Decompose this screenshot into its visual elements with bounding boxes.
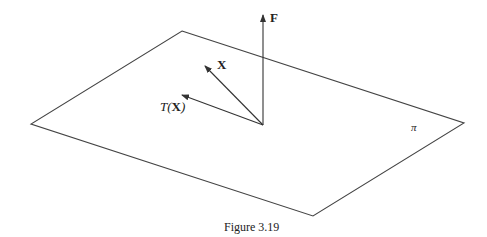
plane-pi	[31, 31, 464, 216]
vector-tx-arrow	[182, 95, 263, 125]
vector-f-label: F	[270, 10, 278, 26]
diagram-canvas	[0, 0, 487, 237]
paren-close: )	[181, 99, 185, 114]
vector-x-label: X	[217, 57, 226, 73]
plane-label: π	[411, 121, 417, 133]
figure-caption: Figure 3.19	[224, 220, 279, 235]
transform-arg: X	[172, 99, 181, 114]
vector-x-arrow	[205, 66, 263, 125]
vector-tx-label: T(X)	[160, 99, 185, 115]
